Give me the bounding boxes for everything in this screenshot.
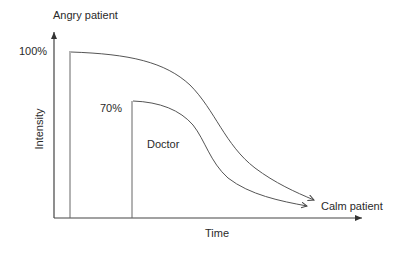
patient-curve [71, 52, 314, 200]
doctor-curve [133, 101, 307, 206]
x-axis-label: Time [205, 227, 229, 239]
doctor-curve-label: Doctor [147, 138, 179, 150]
x-axis-end-label: Calm patient [321, 200, 383, 212]
y-axis-label: Intensity [33, 104, 45, 154]
y-axis-top-label: Angry patient [53, 9, 118, 21]
doctor-start-label: 70% [100, 102, 122, 114]
patient-start-label: 100% [19, 45, 47, 57]
diagram-canvas [0, 0, 404, 253]
